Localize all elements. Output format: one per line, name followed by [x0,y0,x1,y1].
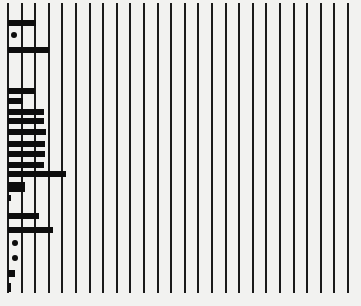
horizontal-bar [8,129,46,135]
ruled-bar-figure [0,0,361,306]
horizontal-bar [8,151,45,157]
horizontal-bar [8,171,66,177]
vertical-rule-line [143,3,145,293]
vertical-rule-line [61,3,63,293]
vertical-rule-line [102,3,104,293]
dot-marker [12,240,18,246]
vertical-rule-line [129,3,131,293]
horizontal-bar [8,20,36,26]
horizontal-bar [8,109,44,115]
vertical-rule-line [75,3,77,293]
horizontal-bar [8,47,49,53]
vertical-rule-line [89,3,91,293]
vertical-rule-line [157,3,159,293]
horizontal-bar [8,270,15,277]
horizontal-bar [8,141,45,147]
vertical-rule-line [225,3,227,293]
horizontal-bar [8,162,44,168]
vertical-rule-line [184,3,186,293]
vertical-rule-line [320,3,322,293]
vertical-rule-line [293,3,295,293]
horizontal-bar [8,227,53,233]
vertical-rule-line [279,3,281,293]
vertical-rule-line [333,3,335,293]
dot-marker [12,255,18,261]
horizontal-bar [8,213,39,219]
vertical-rule-line [252,3,254,293]
vertical-rule-line [116,3,118,293]
horizontal-bar [8,187,25,192]
horizontal-bar [8,195,11,201]
horizontal-bar [8,283,11,292]
horizontal-bar [8,98,23,104]
vertical-rule-line [238,3,240,293]
vertical-rule-line [197,3,199,293]
vertical-rule-line [347,3,349,293]
vertical-rule-line [306,3,308,293]
vertical-rule-line [265,3,267,293]
vertical-rule-line [170,3,172,293]
horizontal-bar [8,88,35,94]
dot-marker [11,32,17,38]
horizontal-bar [8,118,44,124]
vertical-rule-line [211,3,213,293]
